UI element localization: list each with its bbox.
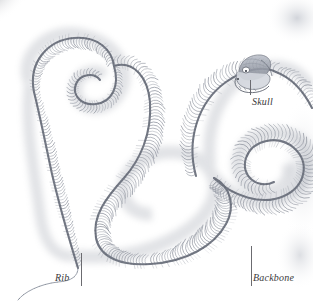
rib-leader-line: [81, 253, 82, 286]
label-backbone: Backbone: [253, 272, 294, 283]
label-skull: Skull: [252, 96, 273, 107]
skull-leader-line: [250, 80, 251, 95]
snake-skeleton-illustration: [0, 0, 313, 304]
label-rib: Rib: [55, 272, 70, 283]
snake-skeleton-figure: Skull Rib Backbone: [0, 0, 313, 304]
backbone-leader-line: [251, 246, 252, 286]
